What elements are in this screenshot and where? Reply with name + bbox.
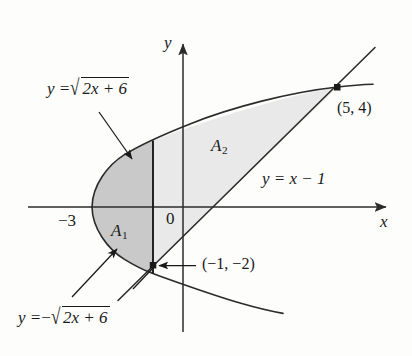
upper-parabola-label: y =√2x + 6 <box>47 77 129 99</box>
region-a2-label: A2 <box>211 137 228 157</box>
leader-arrow-upper-parabola <box>99 112 132 159</box>
lower-parabola-label-prefix: y = <box>18 308 41 327</box>
lower-parabola-radicand: 2x + 6 <box>62 306 110 326</box>
x-axis-label: x <box>380 213 388 230</box>
origin-label: 0 <box>166 210 175 227</box>
y-axis-label: y <box>164 34 172 51</box>
point-label-5-4: (5, 4) <box>337 100 372 116</box>
point-marker-5-4 <box>334 84 341 91</box>
area-between-curves-figure <box>0 0 412 356</box>
lower-parabola-minus-sign: − <box>41 308 51 327</box>
radical-sign-glyph: √ <box>70 77 79 99</box>
radical-icon: √2x + 6 <box>70 77 129 99</box>
x-tick-minus-3: −3 <box>58 212 76 229</box>
region-a1-label: A1 <box>111 222 128 242</box>
region-a1-letter: A <box>111 221 121 240</box>
point-marker-minus1-minus2 <box>150 262 157 269</box>
line-label: y = x − 1 <box>262 170 326 187</box>
leader-stub-lower-parabola <box>133 269 152 289</box>
radical-sign-glyph: √ <box>51 306 60 328</box>
region-a1-subscript: 1 <box>121 229 127 241</box>
point-label-minus1-minus2: (−1, −2) <box>202 256 255 272</box>
region-a2-subscript: 2 <box>221 144 227 156</box>
leader-arrow-lower-parabola <box>72 249 117 297</box>
lower-parabola-label: y =−√2x + 6 <box>18 306 110 328</box>
radical-icon: √2x + 6 <box>51 306 110 328</box>
region-a2-letter: A <box>211 136 221 155</box>
upper-parabola-label-prefix: y = <box>47 79 70 98</box>
upper-parabola-radicand: 2x + 6 <box>81 77 129 97</box>
